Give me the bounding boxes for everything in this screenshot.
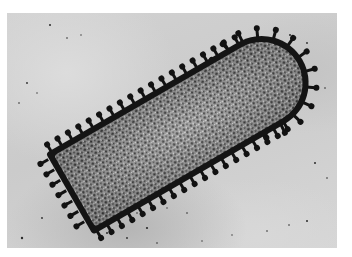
virus-particle (7, 13, 337, 248)
virus-body (29, 13, 337, 248)
micrograph-photo (7, 13, 337, 248)
